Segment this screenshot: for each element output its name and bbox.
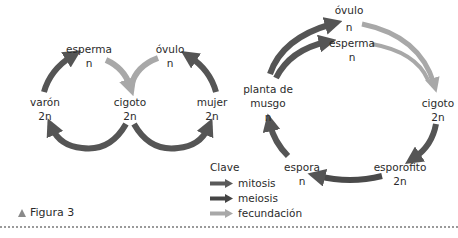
node-planta-musgo: planta de musgo n [243, 82, 293, 124]
mitosis-arrow-icon [210, 179, 234, 188]
node-varon: varón 2n [30, 95, 60, 123]
legend-label: meiosis [238, 191, 278, 206]
legend: Clave mitosis meiosis fecundación [210, 160, 302, 221]
node-mujer: mujer 2n [197, 95, 228, 123]
node-name: esperma [329, 36, 375, 50]
node-name: óvulo [156, 42, 185, 56]
node-ovulo-moss: óvulo n [335, 3, 364, 34]
legend-label: mitosis [238, 176, 276, 191]
figure-caption: Figura 3 [18, 206, 74, 219]
node-name: cigoto [114, 95, 146, 109]
arrow-cigoto-mujer [134, 124, 208, 149]
arrow-espora-planta [270, 124, 288, 156]
node-ploidy: 2n [30, 109, 60, 123]
node-esperma-human: esperma n [66, 42, 112, 70]
node-name: esperma [66, 42, 112, 56]
legend-item-fecundacion: fecundación [210, 206, 302, 221]
legend-label: fecundación [238, 206, 302, 221]
node-name: varón [30, 95, 60, 109]
node-name-line2: musgo [243, 96, 293, 110]
node-esperma-moss: esperma n [329, 36, 375, 64]
node-ploidy: 2n [114, 109, 146, 123]
dotted-divider [0, 226, 458, 228]
node-cigoto-human: cigoto 2n [114, 95, 146, 123]
node-name-line1: planta de [243, 82, 293, 96]
arrow-esporofito-espora [318, 176, 382, 180]
node-cigoto-moss: cigoto 2n [422, 96, 454, 124]
legend-item-mitosis: mitosis [210, 176, 302, 191]
node-ploidy: n [329, 50, 375, 64]
arrow-ovulo-cigoto [131, 58, 158, 86]
node-ploidy: n [335, 20, 364, 34]
node-ploidy: 2n [197, 109, 228, 123]
node-esporofito: esporofito 2n [374, 160, 427, 188]
legend-item-meiosis: meiosis [210, 191, 302, 206]
arrow-esperma-cigoto-moss [372, 44, 428, 80]
node-ploidy: n [243, 110, 293, 124]
node-name: esporofito [374, 160, 427, 174]
arrow-mujer-ovulo [190, 57, 216, 92]
legend-title: Clave [210, 160, 302, 175]
triangle-icon [18, 209, 26, 217]
node-ovulo-human: óvulo n [156, 42, 185, 70]
fecundacion-arrow-icon [210, 209, 234, 218]
node-name: mujer [197, 95, 228, 109]
arrow-cigoto-esporofito [414, 124, 436, 158]
node-ploidy: 2n [422, 110, 454, 124]
node-ploidy: 2n [374, 174, 427, 188]
node-ploidy: n [66, 56, 112, 70]
node-name: cigoto [422, 96, 454, 110]
node-ploidy: n [156, 56, 185, 70]
node-name: óvulo [335, 3, 364, 17]
arrow-cigoto-varon [52, 124, 126, 149]
caption-label: Figura 3 [30, 206, 74, 219]
meiosis-arrow-icon [210, 194, 234, 203]
